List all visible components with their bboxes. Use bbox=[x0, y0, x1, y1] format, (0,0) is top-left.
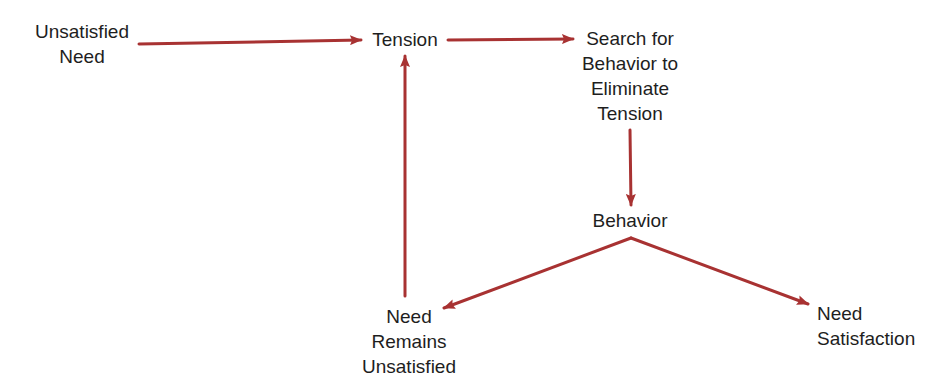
node-line: Need bbox=[357, 304, 461, 329]
node-line: Satisfaction bbox=[817, 326, 927, 351]
motivation-diagram: Unsatisfied Need Tension Search for Beha… bbox=[0, 0, 945, 383]
edge-behavior-to-need-remains bbox=[444, 238, 631, 308]
node-line: Behavior to bbox=[570, 51, 690, 76]
node-behavior: Behavior bbox=[580, 208, 680, 233]
node-tension: Tension bbox=[363, 27, 447, 52]
edge-search-to-behavior bbox=[630, 130, 631, 205]
node-line: Remains bbox=[357, 329, 461, 354]
node-line: Behavior bbox=[580, 208, 680, 233]
edge-tension-to-search bbox=[448, 39, 573, 40]
node-line: Unsatisfied bbox=[357, 354, 461, 379]
edge-unsatisfied-to-tension bbox=[139, 40, 361, 44]
node-line: Need bbox=[22, 44, 142, 69]
node-search-behavior: Search for Behavior to Eliminate Tension bbox=[570, 26, 690, 126]
node-line: Eliminate bbox=[570, 76, 690, 101]
node-line: Unsatisfied bbox=[22, 19, 142, 44]
node-need-satisfaction: Need Satisfaction bbox=[817, 301, 927, 351]
node-unsatisfied-need: Unsatisfied Need bbox=[22, 19, 142, 69]
node-line: Search for bbox=[570, 26, 690, 51]
edge-behavior-to-need-satisfaction bbox=[631, 238, 808, 304]
node-need-remains-unsatisfied: Need Remains Unsatisfied bbox=[357, 304, 461, 379]
node-line: Tension bbox=[363, 27, 447, 52]
node-line: Need bbox=[817, 301, 927, 326]
node-line: Tension bbox=[570, 101, 690, 126]
